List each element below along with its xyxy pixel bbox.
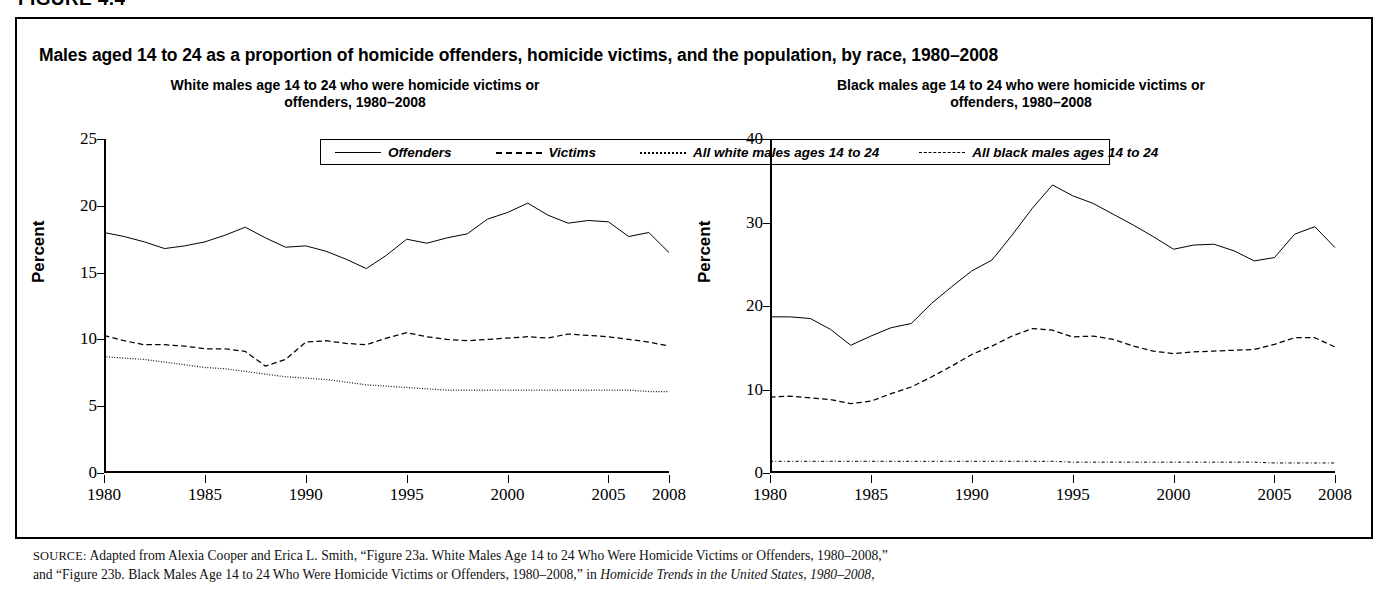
series-line-dashed bbox=[770, 329, 1335, 404]
y-tick-mark bbox=[97, 339, 104, 340]
axes-white bbox=[104, 139, 669, 473]
x-tick-mark bbox=[508, 475, 509, 483]
y-tick-label: 10 bbox=[727, 380, 763, 400]
x-axis-line bbox=[104, 471, 669, 473]
y-tick-label: 0 bbox=[727, 463, 763, 483]
y-tick-label: 10 bbox=[61, 329, 97, 349]
y-axis-ticks-black: 010203040 bbox=[723, 133, 763, 513]
y-axis-ticks-white: 0510152025 bbox=[57, 133, 97, 513]
source-note: SOURCE: Adapted from Alexia Cooper and E… bbox=[33, 547, 1383, 584]
x-tick-label: 2005 bbox=[1257, 485, 1291, 505]
x-tick-mark bbox=[608, 475, 609, 483]
source-note-line1: Adapted from Alexia Cooper and Erica L. … bbox=[89, 548, 887, 563]
x-tick-mark bbox=[972, 475, 973, 483]
y-tick-mark bbox=[97, 273, 104, 274]
y-tick-mark bbox=[763, 139, 770, 140]
x-tick-mark bbox=[306, 475, 307, 483]
y-tick-mark bbox=[763, 306, 770, 307]
series-lines-white bbox=[104, 139, 669, 473]
y-tick-mark bbox=[97, 139, 104, 140]
x-tick-mark bbox=[1274, 475, 1275, 483]
source-note-publication: Homicide Trends in the United States, 19… bbox=[600, 567, 874, 582]
source-note-line2: and “Figure 23b. Black Males Age 14 to 2… bbox=[33, 567, 600, 582]
y-axis-label: Percent bbox=[29, 221, 49, 283]
x-tick-mark bbox=[1073, 475, 1074, 483]
y-tick-label: 20 bbox=[61, 196, 97, 216]
x-tick-label: 1995 bbox=[390, 485, 424, 505]
y-tick-label: 40 bbox=[727, 129, 763, 149]
panel-title: White males age 14 to 24 who were homici… bbox=[145, 77, 565, 111]
y-tick-label: 15 bbox=[61, 263, 97, 283]
x-tick-label: 1985 bbox=[188, 485, 222, 505]
series-lines-black bbox=[770, 139, 1335, 473]
x-tick-label: 2008 bbox=[652, 485, 686, 505]
series-line-dotted bbox=[104, 357, 669, 392]
y-tick-mark bbox=[97, 406, 104, 407]
x-tick-label: 1995 bbox=[1056, 485, 1090, 505]
panel-title: Black males age 14 to 24 who were homici… bbox=[811, 77, 1231, 111]
series-line-dashdot bbox=[770, 461, 1335, 463]
x-tick-mark bbox=[1174, 475, 1175, 483]
x-tick-mark bbox=[770, 475, 771, 483]
figure-title: Males aged 14 to 24 as a proportion of h… bbox=[39, 45, 998, 66]
y-tick-label: 30 bbox=[727, 213, 763, 233]
y-tick-mark bbox=[97, 473, 104, 474]
x-tick-mark bbox=[104, 475, 105, 483]
plot-area-white: Percent 0510152025 198019851990199520002… bbox=[35, 133, 675, 513]
y-axis-label: Percent bbox=[695, 221, 715, 283]
x-tick-label: 1985 bbox=[854, 485, 888, 505]
x-tick-label: 2000 bbox=[1157, 485, 1191, 505]
x-tick-label: 1990 bbox=[289, 485, 323, 505]
x-tick-label: 1980 bbox=[87, 485, 121, 505]
chart-panel-black-males: Black males age 14 to 24 who were homici… bbox=[701, 77, 1341, 532]
y-axis-line bbox=[104, 139, 106, 473]
x-axis-ticks-black: 1980198519901995200020052008 bbox=[770, 475, 1335, 501]
plot-area-black: Percent 010203040 1980198519901995200020… bbox=[701, 133, 1341, 513]
x-tick-mark bbox=[1335, 475, 1336, 483]
y-tick-mark bbox=[763, 223, 770, 224]
x-tick-mark bbox=[669, 475, 670, 483]
chart-panel-white-males: White males age 14 to 24 who were homici… bbox=[35, 77, 675, 532]
y-axis-line bbox=[770, 139, 772, 473]
source-note-prefix: SOURCE: bbox=[33, 549, 87, 563]
x-axis-ticks-white: 1980198519901995200020052008 bbox=[104, 475, 669, 501]
figure-container: Males aged 14 to 24 as a proportion of h… bbox=[15, 17, 1373, 539]
x-tick-mark bbox=[871, 475, 872, 483]
y-tick-mark bbox=[763, 390, 770, 391]
figure-label: FIGURE 4.4 bbox=[18, 0, 125, 6]
x-tick-label: 2008 bbox=[1318, 485, 1352, 505]
series-line-solid bbox=[770, 185, 1335, 345]
axes-black bbox=[770, 139, 1335, 473]
x-tick-label: 2005 bbox=[591, 485, 625, 505]
y-tick-label: 0 bbox=[61, 463, 97, 483]
x-tick-mark bbox=[407, 475, 408, 483]
x-tick-label: 2000 bbox=[491, 485, 525, 505]
x-tick-mark bbox=[205, 475, 206, 483]
y-tick-label: 5 bbox=[61, 396, 97, 416]
y-tick-mark bbox=[763, 473, 770, 474]
x-tick-label: 1980 bbox=[753, 485, 787, 505]
x-tick-label: 1990 bbox=[955, 485, 989, 505]
series-line-dashed bbox=[104, 333, 669, 366]
x-axis-line bbox=[770, 471, 1335, 473]
y-tick-mark bbox=[97, 206, 104, 207]
y-tick-label: 20 bbox=[727, 296, 763, 316]
y-tick-label: 25 bbox=[61, 129, 97, 149]
series-line-solid bbox=[104, 203, 669, 268]
